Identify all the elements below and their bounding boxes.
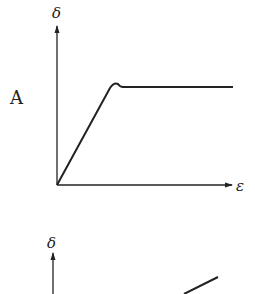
diagram-canvas: A δ ε δ — [0, 0, 255, 294]
panel-a-label: A — [9, 87, 24, 108]
stress-strain-curve — [57, 84, 233, 186]
panel-b: δ — [47, 234, 218, 294]
y-axis-label: δ — [52, 4, 61, 22]
panel-a: A δ ε — [9, 4, 244, 195]
y-axis-label-b: δ — [47, 234, 56, 252]
curve-b — [184, 277, 218, 294]
x-axis-label: ε — [236, 177, 244, 195]
